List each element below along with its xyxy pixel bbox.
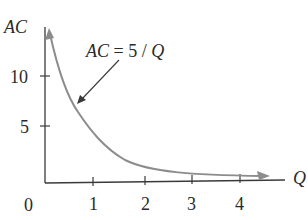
annotation-eq: = 5 / bbox=[109, 41, 151, 61]
curve-arrowhead-right-icon bbox=[257, 171, 270, 180]
x-axis-label: Q bbox=[293, 169, 306, 187]
annotation-pointer bbox=[81, 60, 119, 100]
chart-plot bbox=[0, 0, 308, 220]
origin-label: 0 bbox=[24, 196, 33, 214]
x-tick-2: 2 bbox=[141, 195, 150, 213]
x-axis bbox=[45, 180, 285, 183]
x-tick-4: 4 bbox=[235, 195, 244, 213]
annotation-label: AC = 5 / Q bbox=[86, 42, 164, 60]
annotation-rhs: Q bbox=[151, 41, 164, 61]
average-cost-chart: AC Q 0 1 2 3 4 10 5 AC = 5 / Q bbox=[0, 0, 308, 220]
y-tick-10: 10 bbox=[10, 68, 28, 86]
x-tick-3: 3 bbox=[187, 195, 196, 213]
y-axis-label: AC bbox=[4, 18, 27, 36]
annotation-lhs: AC bbox=[86, 41, 109, 61]
curve-arrowhead-top-icon bbox=[45, 28, 54, 40]
x-tick-1: 1 bbox=[89, 195, 98, 213]
y-tick-5: 5 bbox=[20, 118, 29, 136]
